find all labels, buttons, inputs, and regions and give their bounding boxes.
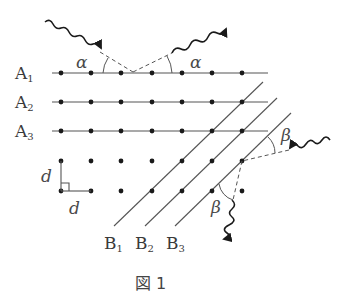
lattice-dot <box>180 159 185 164</box>
lattice-dot <box>119 71 124 76</box>
lattice-dot <box>150 189 155 194</box>
spacing-marker <box>61 161 91 191</box>
angle-label-beta-reflected: β <box>210 197 221 217</box>
spacing-label-vertical: d <box>41 166 52 186</box>
incident-wave-b-icon <box>290 137 330 148</box>
row-label-a2: A2 <box>14 92 34 113</box>
lattice-dot <box>119 189 124 194</box>
lattice-dot <box>119 159 124 164</box>
lattice-dot <box>240 100 245 105</box>
lattice-dot <box>240 189 245 194</box>
angle-label-alpha-incident: α <box>76 52 88 72</box>
angle-arc-beta-upper <box>268 137 275 153</box>
lattice-dot <box>210 159 215 164</box>
angle-arc-beta-lower <box>219 184 233 200</box>
lattice-dot <box>210 71 215 76</box>
lattice-dot <box>180 71 185 76</box>
lattice-dot <box>89 129 94 134</box>
lattice-dot <box>89 159 94 164</box>
row-label-a1: A1 <box>14 63 34 84</box>
lattice-dot <box>150 159 155 164</box>
lattice-dot <box>180 189 185 194</box>
lattice-dot <box>89 71 94 76</box>
angle-arc-alpha-left <box>103 58 108 73</box>
angle-label-alpha-reflected: α <box>190 52 202 72</box>
lattice-dot <box>210 189 215 194</box>
lattice-dot <box>240 71 245 76</box>
lattice-dot <box>59 100 64 105</box>
lattice-dot <box>180 100 185 105</box>
plane-labels: B1 B2 B3 <box>104 233 185 254</box>
lattice-rows-A <box>52 73 268 131</box>
incident-wave-a-icon <box>45 20 101 48</box>
lattice-dot <box>210 129 215 134</box>
incident-ray-a <box>100 52 133 72</box>
lattice-dot <box>59 71 64 76</box>
crystal-diffraction-figure: d d α α β β A1 A2 A3 B1 B2 B3 図 1 <box>0 0 349 304</box>
lattice-dot <box>210 100 215 105</box>
incident-ray-b <box>242 150 289 161</box>
plane-label-b2: B2 <box>135 233 154 254</box>
angle-arc-alpha-right <box>167 56 172 73</box>
lattice-dot <box>150 100 155 105</box>
row-label-a3: A3 <box>14 121 34 142</box>
lattice-dot <box>119 129 124 134</box>
figure-caption: 図 1 <box>135 274 166 293</box>
spacing-label-horizontal: d <box>69 198 80 218</box>
row-labels: A1 A2 A3 <box>14 63 34 142</box>
lattice-dots <box>59 71 245 194</box>
reflected-wave-b-icon <box>224 200 235 239</box>
lattice-planes-B <box>114 82 291 226</box>
reflected-ray-a <box>133 53 172 72</box>
lattice-dot <box>89 100 94 105</box>
lattice-dot <box>180 129 185 134</box>
angle-label-beta-incident: β <box>280 125 291 145</box>
lattice-dot <box>240 129 245 134</box>
lattice-dot <box>150 71 155 76</box>
lattice-dot <box>59 129 64 134</box>
reflected-wave-a-icon <box>172 29 226 53</box>
plane-label-b3: B3 <box>166 233 185 254</box>
reflected-ray-b <box>233 161 242 200</box>
lattice-dot <box>119 100 124 105</box>
lattice-dot <box>150 129 155 134</box>
plane-label-b1: B1 <box>104 233 123 254</box>
